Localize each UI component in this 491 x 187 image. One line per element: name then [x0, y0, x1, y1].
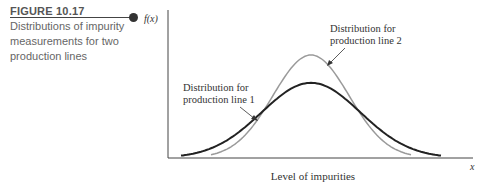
x-axis-label: Level of impurities — [271, 170, 355, 182]
annotation-line-2-l2: production line 2 — [330, 35, 402, 46]
chart: f(x) x Level of impurities Distribution … — [0, 0, 491, 187]
x-axis-symbol: x — [469, 161, 475, 172]
y-axis-label: f(x) — [144, 13, 159, 25]
annotation-line-2-l1: Distribution for — [330, 23, 396, 34]
annotation-line-1-l1: Distribution for — [183, 82, 249, 93]
annotation-line-1-l2: production line 1 — [183, 94, 255, 105]
annotation-arrow-2 — [329, 48, 345, 64]
